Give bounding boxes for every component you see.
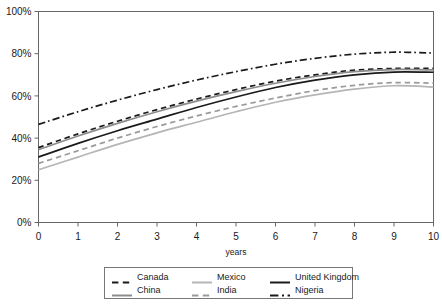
x-tick-label: 8 — [352, 231, 358, 242]
x-tick-label: 2 — [115, 231, 121, 242]
legend-swatch-mexico — [191, 273, 213, 282]
legend-item-united-kingdom: United Kingdom — [269, 273, 359, 282]
series-line-mexico — [39, 86, 434, 170]
legend-item-canada: Canada — [111, 273, 191, 282]
legend-swatch-nigeria — [269, 286, 291, 295]
chart-legend: Canada Mexico United Kingdom China India… — [104, 267, 353, 299]
x-tick-label: 5 — [233, 231, 239, 242]
line-chart: 0%20%40%60%80%100% 012345678910 years — [0, 0, 443, 306]
legend-label-china: China — [137, 286, 161, 295]
y-tick-label: 100% — [6, 6, 32, 17]
legend-label-canada: Canada — [137, 273, 169, 282]
x-tick-label: 4 — [194, 231, 200, 242]
x-tick-label: 0 — [36, 231, 42, 242]
plot-frame — [39, 12, 434, 223]
series-line-nigeria — [39, 52, 434, 124]
legend-label-india: India — [217, 286, 237, 295]
y-axis-ticks: 0%20%40%60%80%100% — [6, 6, 39, 228]
chart-container: 0%20%40%60%80%100% 012345678910 years Ca… — [0, 0, 443, 306]
y-tick-label: 40% — [11, 133, 31, 144]
x-tick-label: 10 — [428, 231, 440, 242]
y-tick-label: 0% — [17, 217, 32, 228]
x-tick-label: 7 — [312, 231, 318, 242]
legend-label-united-kingdom: United Kingdom — [295, 273, 359, 282]
x-tick-label: 3 — [154, 231, 160, 242]
y-tick-label: 80% — [11, 48, 31, 59]
legend-item-china: China — [111, 286, 191, 295]
series-line-united-kingdom — [39, 72, 434, 157]
series-line-canada — [39, 68, 434, 147]
series-lines — [39, 52, 434, 170]
legend-swatch-india — [191, 286, 213, 295]
x-tick-label: 6 — [273, 231, 279, 242]
legend-item-mexico: Mexico — [191, 273, 269, 282]
y-tick-label: 60% — [11, 91, 31, 102]
x-tick-label: 1 — [75, 231, 81, 242]
x-tick-label: 9 — [391, 231, 397, 242]
legend-label-nigeria: Nigeria — [295, 286, 324, 295]
legend-item-nigeria: Nigeria — [269, 286, 359, 295]
legend-swatch-united-kingdom — [269, 273, 291, 282]
x-axis-title: years — [226, 247, 247, 257]
y-tick-label: 20% — [11, 175, 31, 186]
legend-item-india: India — [191, 286, 269, 295]
legend-swatch-china — [111, 286, 133, 295]
legend-swatch-canada — [111, 273, 133, 282]
legend-label-mexico: Mexico — [217, 273, 246, 282]
x-axis-ticks: 012345678910 — [36, 223, 440, 242]
